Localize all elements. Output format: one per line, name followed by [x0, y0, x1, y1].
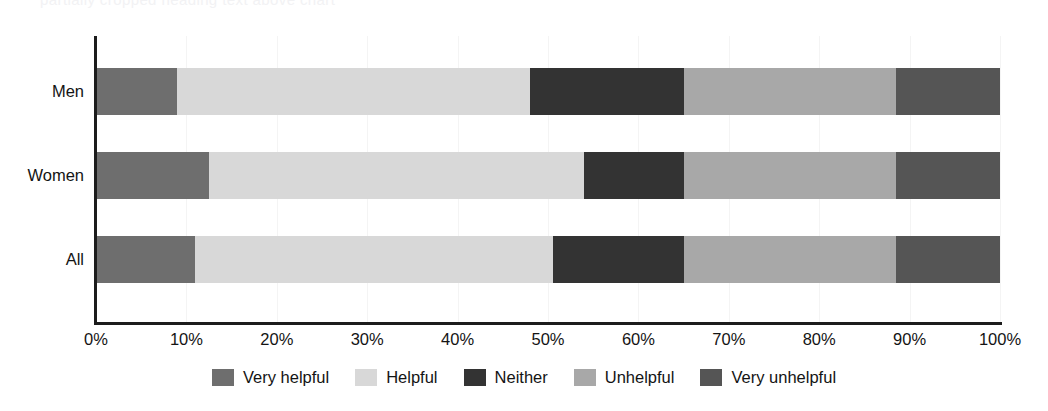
legend-label: Helpful: [386, 368, 437, 387]
legend-swatch-icon: [355, 369, 377, 386]
x-tick-label: 10%: [151, 330, 221, 349]
plot-area: MenWomenAll: [96, 36, 1000, 325]
legend-swatch-icon: [574, 369, 596, 386]
legend-item-very-helpful[interactable]: Very helpful: [212, 368, 329, 387]
bar-segment-unhelpful: [684, 152, 896, 199]
bar-segment-neither: [553, 236, 684, 283]
bar-track: [96, 152, 1000, 199]
legend-label: Unhelpful: [605, 368, 675, 387]
bar-segment-neither: [530, 68, 684, 115]
bar-row: All: [96, 236, 1000, 283]
bar-segment-very-helpful: [96, 68, 177, 115]
bar-segment-very-unhelpful: [896, 236, 1000, 283]
x-tick-label: 20%: [242, 330, 312, 349]
bar-segment-helpful: [195, 236, 552, 283]
bar-segment-very-unhelpful: [896, 152, 1000, 199]
legend-label: Very unhelpful: [731, 368, 836, 387]
legend-item-unhelpful[interactable]: Unhelpful: [574, 368, 675, 387]
x-tick-label: 0%: [61, 330, 131, 349]
x-tick-label: 40%: [423, 330, 493, 349]
x-axis-line: [94, 322, 1002, 325]
legend-swatch-icon: [700, 369, 722, 386]
x-tick-label: 30%: [332, 330, 402, 349]
x-tick-label: 70%: [694, 330, 764, 349]
stacked-bar-chart: MenWomenAll 0%10%20%30%40%50%60%70%80%90…: [0, 0, 1048, 411]
bar-segment-neither: [584, 152, 683, 199]
legend-item-neither[interactable]: Neither: [464, 368, 548, 387]
legend-label: Very helpful: [243, 368, 329, 387]
x-tick-label: 90%: [875, 330, 945, 349]
legend-swatch-icon: [464, 369, 486, 386]
bar-segment-very-helpful: [96, 152, 209, 199]
bar-segment-unhelpful: [684, 236, 896, 283]
bar-row: Men: [96, 68, 1000, 115]
category-label-all: All: [0, 236, 84, 283]
bar-segment-helpful: [177, 68, 530, 115]
gridline: [1000, 36, 1001, 325]
bar-track: [96, 68, 1000, 115]
bar-segment-helpful: [209, 152, 584, 199]
bar-track: [96, 236, 1000, 283]
legend-swatch-icon: [212, 369, 234, 386]
category-label-women: Women: [0, 152, 84, 199]
x-tick-label: 50%: [513, 330, 583, 349]
bar-segment-very-unhelpful: [896, 68, 1000, 115]
x-tick-label: 80%: [784, 330, 854, 349]
bar-segment-unhelpful: [684, 68, 896, 115]
chart-legend: Very helpfulHelpfulNeitherUnhelpfulVery …: [0, 368, 1048, 387]
legend-label: Neither: [495, 368, 548, 387]
legend-item-very-unhelpful[interactable]: Very unhelpful: [700, 368, 836, 387]
category-label-men: Men: [0, 68, 84, 115]
y-axis-line: [94, 36, 97, 325]
legend-item-helpful[interactable]: Helpful: [355, 368, 437, 387]
x-tick-label: 100%: [965, 330, 1035, 349]
bar-row: Women: [96, 152, 1000, 199]
x-tick-label: 60%: [603, 330, 673, 349]
bar-segment-very-helpful: [96, 236, 195, 283]
